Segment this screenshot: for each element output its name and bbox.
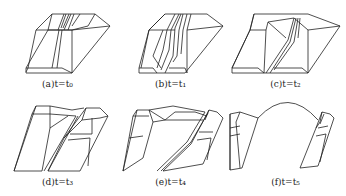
block-diagram-f [228,98,343,176]
panel-a: (a)t=t₀ [0,0,115,98]
panel-b: (b)t=t₁ [113,0,228,98]
block-diagram-c [228,0,343,78]
block-diagram-a [0,0,115,78]
block-diagram-b [113,0,228,78]
caption-b: (b)t=t₁ [113,79,228,89]
caption-e: (e)t=t₄ [113,177,228,187]
panel-c: (c)t=t₂ [228,0,343,98]
caption-f: (f)t=t₅ [228,177,343,187]
panel-e: (e)t=t₄ [113,98,228,196]
caption-d: (d)t=t₃ [0,177,115,187]
caption-c: (c)t=t₂ [228,79,343,89]
block-diagram-d [0,98,115,176]
panel-f: (f)t=t₅ [228,98,343,196]
block-diagram-e [113,98,228,176]
panel-d: (d)t=t₃ [0,98,115,196]
caption-a: (a)t=t₀ [0,79,115,89]
